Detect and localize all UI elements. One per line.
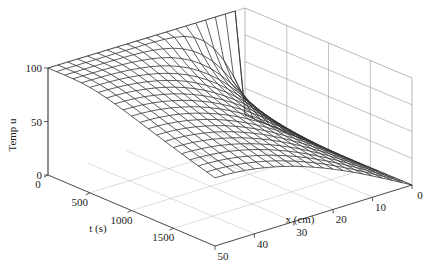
tick-label: 0: [35, 178, 41, 190]
t-axis-label: t (s): [89, 222, 107, 235]
surface-plot: 05010005001000150001020304050 Temp u t (…: [0, 0, 432, 264]
tick-label: 500: [72, 196, 89, 208]
tick-label: 100: [26, 62, 43, 74]
tick-label: 30: [296, 226, 308, 238]
tick-label: 10: [375, 201, 387, 213]
tick-label: 40: [257, 238, 269, 250]
tick-label: 50: [218, 250, 230, 262]
tick-label: 0: [417, 189, 423, 201]
tick-label: 1500: [152, 231, 175, 243]
tick-label: 50: [31, 116, 43, 128]
surface-mesh: [48, 11, 412, 185]
x-axis-label: x (cm): [285, 213, 314, 226]
axes: 05010005001000150001020304050: [26, 62, 424, 262]
tick-label: 1000: [111, 214, 134, 226]
tick-label: 20: [336, 213, 348, 225]
z-axis-label: Temp u: [6, 118, 18, 152]
